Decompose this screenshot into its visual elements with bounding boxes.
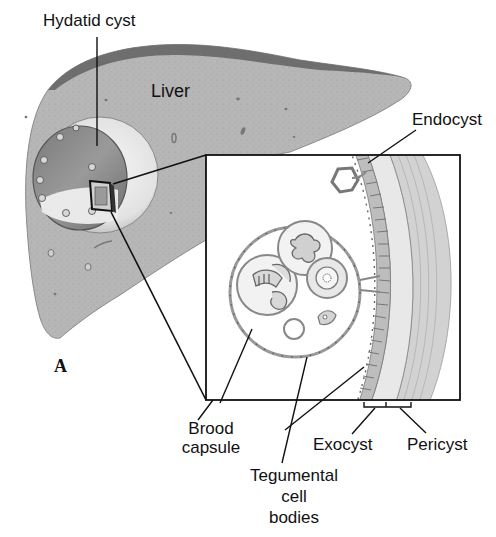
label-brood-capsule: Brood capsule [180,419,242,457]
panel-letter: A [54,356,67,377]
diagram-canvas [0,0,496,537]
magnification-marker [90,181,116,213]
label-brood-capsule-line1: Brood [180,419,242,438]
label-liver: Liver [151,82,190,101]
label-hydatid-cyst: Hydatid cyst [43,11,136,30]
daughter-vesicle [284,319,304,339]
leader-exocyst [352,408,375,434]
figure-stage: Hydatid cyst Liver Endocyst Brood capsul… [0,0,496,537]
leader-brood-1 [198,400,213,420]
label-tegumental-cell-bodies: Tegumental cell bodies [244,465,344,528]
label-brood-capsule-line2: capsule [180,438,242,457]
inset-magnified-wall [206,150,460,405]
label-tegumental-line1: Tegumental [244,465,344,486]
leader-pericyst [400,408,426,433]
label-exocyst: Exocyst [313,435,373,454]
label-endocyst: Endocyst [412,110,482,129]
budding-capsule [332,168,358,192]
label-tegumental-line3: bodies [244,507,344,528]
label-pericyst: Pericyst [407,435,467,454]
label-tegumental-line2: cell [244,486,344,507]
